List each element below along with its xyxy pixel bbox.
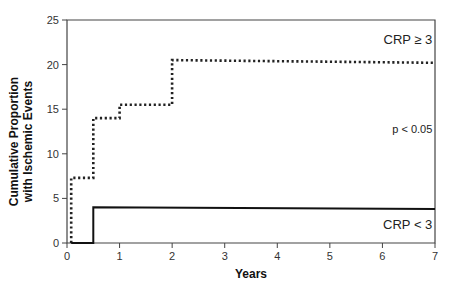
y-tick-label: 20 bbox=[47, 59, 59, 71]
y-axis-ticks: 0510152025 bbox=[47, 14, 67, 249]
y-tick-label: 5 bbox=[53, 192, 59, 204]
x-tick-label: 0 bbox=[64, 250, 70, 262]
x-tick-label: 1 bbox=[117, 250, 123, 262]
x-tick-label: 6 bbox=[379, 250, 385, 262]
x-axis-ticks: 01234567 bbox=[64, 243, 438, 262]
x-tick-label: 4 bbox=[274, 250, 280, 262]
y-tick-label: 10 bbox=[47, 148, 59, 160]
km-chart: 0510152025 01234567 CRP ≥ 3p < 0.05CRP <… bbox=[0, 0, 449, 291]
y-tick-label: 25 bbox=[47, 14, 59, 26]
y-tick-label: 15 bbox=[47, 103, 59, 115]
series-group bbox=[71, 60, 435, 243]
series-label-annotation: CRP < 3 bbox=[383, 217, 432, 232]
x-tick-label: 2 bbox=[169, 250, 175, 262]
p-value-annotation: p < 0.05 bbox=[392, 123, 432, 135]
y-axis-title-line: Cumulative Proportion bbox=[7, 77, 21, 206]
x-axis-title: Years bbox=[235, 267, 267, 281]
x-tick-label: 7 bbox=[432, 250, 438, 262]
y-tick-label: 0 bbox=[53, 237, 59, 249]
series-crp-high-line bbox=[71, 60, 435, 243]
series-label-annotation: CRP ≥ 3 bbox=[384, 32, 433, 47]
series-crp-low-line bbox=[71, 207, 435, 243]
y-axis-title-line: with Ischemic Events bbox=[21, 80, 35, 203]
y-axis-title: Cumulative Proportionwith Ischemic Event… bbox=[7, 77, 35, 206]
x-tick-label: 5 bbox=[327, 250, 333, 262]
x-tick-label: 3 bbox=[222, 250, 228, 262]
